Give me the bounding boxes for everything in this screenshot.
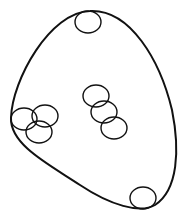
circle-bottom: [130, 187, 156, 209]
diagram-canvas: [0, 0, 187, 219]
circle-mid-c: [101, 117, 127, 139]
outer-boundary: [11, 11, 176, 209]
circle-left-c: [26, 121, 52, 143]
circle-top: [75, 11, 101, 33]
circle-group: [11, 11, 156, 209]
